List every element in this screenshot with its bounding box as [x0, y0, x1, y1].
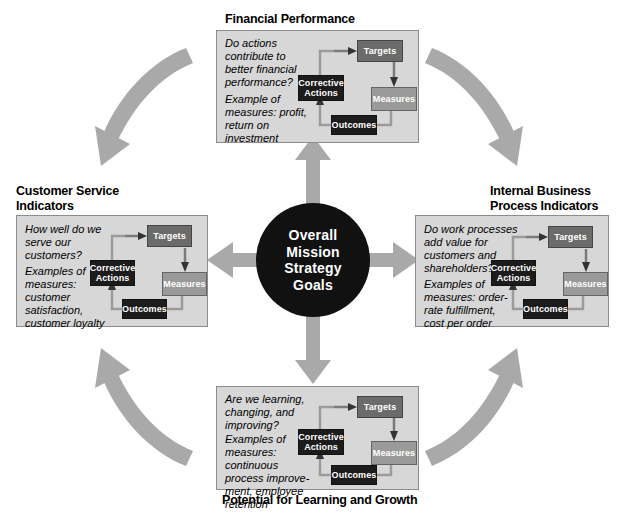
- cycle-box-outcomes-customer: Outcomes: [122, 299, 167, 319]
- cycle-box-measures-customer: Measures: [162, 272, 207, 296]
- balanced-scorecard-diagram: Financial Performance Do actions contrib…: [0, 0, 622, 516]
- quadrant-title-customer: Customer Service Indicators: [16, 184, 196, 213]
- cycle-box-measures-learning: Measures: [371, 441, 417, 465]
- curved-arrow-financial-to-internal: [425, 48, 523, 166]
- cycle-box-measures-internal: Measures: [563, 272, 608, 296]
- curved-arrow-financial-to-customer: [95, 48, 193, 166]
- cycle-box-targets-customer: Targets: [147, 225, 192, 247]
- cycle-box-corrective-learning: Corrective Actions: [298, 429, 344, 455]
- quadrant-title-financial: Financial Performance: [225, 12, 445, 27]
- cycle-box-corrective-customer: Corrective Actions: [90, 260, 135, 286]
- cycle-box-corrective-financial: Corrective Actions: [298, 75, 344, 101]
- cycle-box-targets-financial: Targets: [357, 40, 403, 62]
- cycle-box-outcomes-internal: Outcomes: [523, 299, 568, 319]
- quadrant-panel-learning: Are we learning, changing, and improving…: [216, 386, 419, 490]
- quadrant-panel-internal: Do work processes add value for customer…: [415, 215, 609, 327]
- cycle-box-corrective-internal: Corrective Actions: [491, 260, 536, 286]
- cycle-box-outcomes-learning: Outcomes: [331, 465, 377, 485]
- cycle-box-measures-financial: Measures: [371, 87, 417, 111]
- quadrant-panel-customer: How well do we serve our customers? Exam…: [16, 215, 208, 327]
- quadrant-title-learning: Potential for Learning and Growth: [222, 493, 482, 508]
- curved-arrow-learning-to-customer: [95, 348, 193, 466]
- quadrant-title-internal: Internal Business Process Indicators: [490, 184, 622, 213]
- curved-arrow-learning-to-internal: [425, 348, 523, 466]
- cycle-box-outcomes-financial: Outcomes: [331, 115, 377, 135]
- center-label: Overall Mission Strategy Goals: [284, 227, 342, 293]
- quadrant-panel-financial: Do actions contribute to better financia…: [216, 30, 419, 143]
- cycle-box-targets-learning: Targets: [357, 396, 403, 418]
- cycle-box-targets-internal: Targets: [548, 226, 593, 248]
- center-circle: Overall Mission Strategy Goals: [256, 203, 370, 317]
